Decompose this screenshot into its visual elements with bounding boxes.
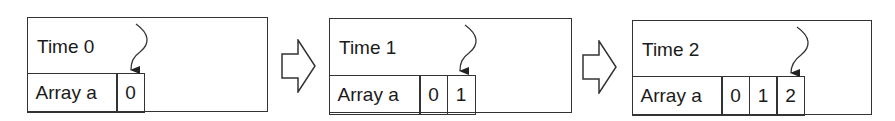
transition-arrow-icon <box>281 39 317 93</box>
panel-time-0: Time 0 Array a 0 <box>27 17 268 112</box>
time-label: Time 0 <box>37 36 94 58</box>
array-row: Array a 0 1 2 <box>632 76 804 116</box>
array-cell: 0 <box>419 75 448 115</box>
array-row: Array a 0 1 <box>329 75 475 115</box>
array-row: Array a 0 <box>27 73 144 113</box>
time-label: Time 1 <box>339 37 396 59</box>
panel-time-2: Time 2 Array a 0 1 2 <box>632 20 872 115</box>
array-cell: 2 <box>776 76 805 116</box>
array-label: Array a <box>329 75 421 115</box>
transition-arrow-icon <box>582 40 618 94</box>
array-cell: 1 <box>749 76 778 116</box>
array-label: Array a <box>632 76 723 116</box>
time-label: Time 2 <box>642 39 699 61</box>
array-label: Array a <box>27 73 118 113</box>
array-cell: 0 <box>116 73 145 113</box>
array-cell: 0 <box>721 76 750 116</box>
array-cell: 1 <box>447 75 476 115</box>
panel-time-1: Time 1 Array a 0 1 <box>329 18 572 113</box>
